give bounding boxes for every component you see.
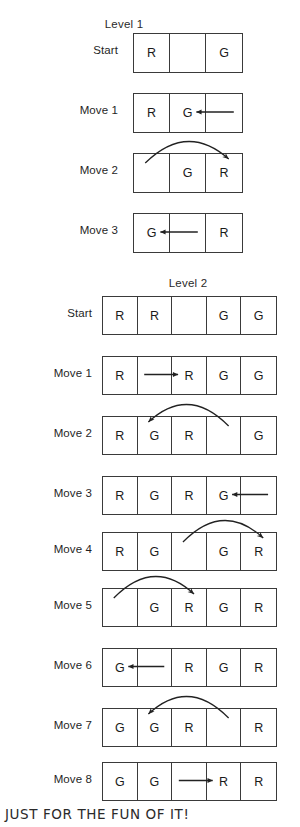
board-cell-token[interactable]: R xyxy=(138,297,173,334)
board-cell-token[interactable]: R xyxy=(206,214,242,252)
board-row: GR xyxy=(133,213,243,253)
board-cell-token[interactable]: R xyxy=(206,154,242,192)
board-row: RG xyxy=(133,33,243,73)
board-cell-token[interactable]: R xyxy=(241,533,276,570)
board-cell-empty[interactable] xyxy=(207,417,242,454)
row-label: Move 3 xyxy=(48,224,118,236)
board-cell-empty[interactable] xyxy=(170,34,206,72)
board-row: RGGR xyxy=(102,532,277,571)
row-label: Move 8 xyxy=(22,773,92,785)
board-cell-token[interactable]: R xyxy=(134,94,170,132)
board-cell-empty[interactable] xyxy=(172,297,207,334)
board-row: GRGR xyxy=(102,588,277,627)
board-cell-token[interactable]: R xyxy=(172,357,207,394)
board-cell-token[interactable]: R xyxy=(172,477,207,514)
board-cell-token[interactable]: G xyxy=(241,417,276,454)
level-2-title: Level 2 xyxy=(0,277,300,289)
board-cell-token[interactable]: G xyxy=(241,297,276,334)
board-cell-token[interactable]: G xyxy=(170,94,206,132)
board-cell-token[interactable]: G xyxy=(138,533,173,570)
board-cell-empty[interactable] xyxy=(138,649,173,686)
board-cell-token[interactable]: G xyxy=(138,589,173,626)
board-cell-token[interactable]: R xyxy=(241,649,276,686)
board-cell-empty[interactable] xyxy=(134,154,170,192)
board-cell-token[interactable]: R xyxy=(103,417,138,454)
board-row: RRGG xyxy=(102,356,277,395)
board-cell-token[interactable]: R xyxy=(241,709,276,746)
board-cell-token[interactable]: R xyxy=(172,649,207,686)
board-cell-token[interactable]: G xyxy=(207,533,242,570)
board-cell-token[interactable]: R xyxy=(103,297,138,334)
board-cell-token[interactable]: G xyxy=(138,417,173,454)
board-cell-token[interactable]: G xyxy=(170,154,206,192)
board-cell-token[interactable]: R xyxy=(172,709,207,746)
row-label: Move 2 xyxy=(22,427,92,439)
row-label: Move 7 xyxy=(22,719,92,731)
board-cell-empty[interactable] xyxy=(170,214,206,252)
board-cell-token[interactable]: G xyxy=(103,709,138,746)
board-row: GGRR xyxy=(102,708,277,747)
row-label: Move 2 xyxy=(48,164,118,176)
board-cell-empty[interactable] xyxy=(241,477,276,514)
row-label: Move 6 xyxy=(22,659,92,671)
board-cell-token[interactable]: R xyxy=(103,477,138,514)
board-cell-token[interactable]: G xyxy=(207,649,242,686)
board-cell-token[interactable]: G xyxy=(138,709,173,746)
row-label: Start xyxy=(48,44,118,56)
board-cell-token[interactable]: G xyxy=(207,297,242,334)
board-cell-token[interactable]: R xyxy=(172,417,207,454)
board-row: RGRG xyxy=(102,476,277,515)
board-row: GRGR xyxy=(102,648,277,687)
board-cell-token[interactable]: R xyxy=(172,589,207,626)
board-cell-empty[interactable] xyxy=(207,709,242,746)
board-row: RGRG xyxy=(102,416,277,455)
row-label: Move 1 xyxy=(22,367,92,379)
board-cell-token[interactable]: R xyxy=(207,763,242,800)
board-cell-token[interactable]: G xyxy=(206,34,242,72)
row-label: Start xyxy=(22,307,92,319)
board-cell-token[interactable]: G xyxy=(207,477,242,514)
row-label: Move 4 xyxy=(22,543,92,555)
board-cell-token[interactable]: R xyxy=(241,589,276,626)
board-cell-token[interactable]: G xyxy=(207,589,242,626)
board-cell-token[interactable]: G xyxy=(103,649,138,686)
board-row: GR xyxy=(133,153,243,193)
board-cell-empty[interactable] xyxy=(138,357,173,394)
row-label: Move 3 xyxy=(22,487,92,499)
board-row: RG xyxy=(133,93,243,133)
level-1-title: Level 1 xyxy=(16,18,232,30)
board-cell-empty[interactable] xyxy=(172,763,207,800)
board-row: GGRR xyxy=(102,762,277,801)
board-cell-token[interactable]: G xyxy=(138,477,173,514)
board-cell-empty[interactable] xyxy=(206,94,242,132)
footer-note: JUST FOR THE FUN OF IT! xyxy=(5,806,189,822)
puzzle-diagram-page: Level 1 StartRGMove 1RGMove 2GRMove 3GR … xyxy=(0,0,300,827)
board-cell-token[interactable]: G xyxy=(103,763,138,800)
board-cell-empty[interactable] xyxy=(103,589,138,626)
row-label: Move 5 xyxy=(22,599,92,611)
board-cell-empty[interactable] xyxy=(172,533,207,570)
board-cell-token[interactable]: R xyxy=(103,533,138,570)
board-row: RRGG xyxy=(102,296,277,335)
board-cell-token[interactable]: G xyxy=(241,357,276,394)
board-cell-token[interactable]: R xyxy=(241,763,276,800)
board-cell-token[interactable]: R xyxy=(103,357,138,394)
board-cell-token[interactable]: R xyxy=(134,34,170,72)
board-cell-token[interactable]: G xyxy=(207,357,242,394)
board-cell-token[interactable]: G xyxy=(138,763,173,800)
row-label: Move 1 xyxy=(48,104,118,116)
board-cell-token[interactable]: G xyxy=(134,214,170,252)
